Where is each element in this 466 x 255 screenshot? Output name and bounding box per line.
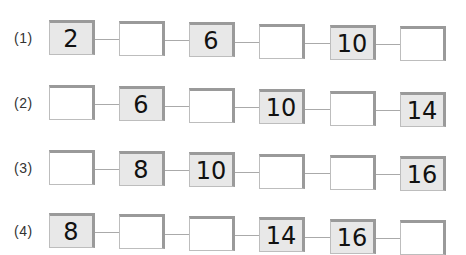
given-number-box: 10 <box>189 152 235 187</box>
connector-line <box>235 235 259 236</box>
connector-line <box>305 173 330 174</box>
connector-line <box>376 238 400 239</box>
answer-box[interactable] <box>400 220 446 255</box>
given-number-box: 6 <box>119 86 165 121</box>
given-number-box: 8 <box>119 151 165 186</box>
answer-box[interactable] <box>259 24 305 59</box>
connector-line <box>165 234 189 235</box>
connector-line <box>95 104 119 105</box>
answer-box[interactable] <box>49 85 95 120</box>
given-number-box: 6 <box>189 22 235 57</box>
connector-line <box>305 237 330 238</box>
connector-line <box>95 169 119 170</box>
problem-number: (3) <box>14 160 33 176</box>
connector-line <box>95 39 119 40</box>
given-number-box: 16 <box>400 156 446 191</box>
given-number-box: 2 <box>49 20 95 55</box>
connector-line <box>235 107 259 108</box>
connector-line <box>165 170 189 171</box>
given-number-box: 10 <box>330 25 376 60</box>
connector-line <box>376 174 400 175</box>
problem-number: (2) <box>14 95 33 111</box>
answer-box[interactable] <box>189 88 235 123</box>
answer-box[interactable] <box>189 216 235 251</box>
given-number-box: 10 <box>259 89 305 124</box>
connector-line <box>376 110 400 111</box>
answer-box[interactable] <box>49 150 95 185</box>
given-number-box: 8 <box>49 213 95 248</box>
given-number-box: 16 <box>330 219 376 254</box>
sequence-row-4: (4)81416 <box>0 213 466 253</box>
connector-line <box>235 172 259 173</box>
sequence-row-1: (1)2610 <box>0 20 466 60</box>
problem-number: (1) <box>14 30 33 46</box>
connector-line <box>305 43 330 44</box>
problem-number: (4) <box>14 223 33 239</box>
given-number-box: 14 <box>400 92 446 127</box>
answer-box[interactable] <box>259 154 305 189</box>
connector-line <box>95 232 119 233</box>
connector-line <box>165 106 189 107</box>
connector-line <box>305 109 330 110</box>
answer-box[interactable] <box>330 155 376 190</box>
sequence-row-2: (2)61014 <box>0 85 466 125</box>
answer-box[interactable] <box>119 21 165 56</box>
connector-line <box>235 42 259 43</box>
sequence-row-3: (3)81016 <box>0 150 466 190</box>
answer-box[interactable] <box>119 214 165 249</box>
answer-box[interactable] <box>400 26 446 61</box>
given-number-box: 14 <box>259 217 305 252</box>
connector-line <box>376 44 400 45</box>
connector-line <box>165 40 189 41</box>
answer-box[interactable] <box>330 91 376 126</box>
